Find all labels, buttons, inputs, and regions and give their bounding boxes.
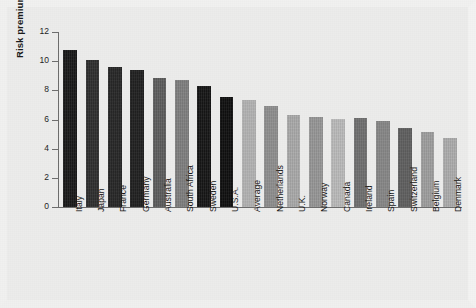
y-tick-label: 12 (40, 26, 49, 36)
y-tick-0: 0 (52, 207, 58, 208)
bar-texture (287, 115, 301, 207)
y-tick-label: 0 (44, 201, 49, 211)
x-tick-label-germany: Germany (141, 176, 151, 212)
x-tick-label-ireland: Ireland (364, 185, 374, 212)
x-tick-label-italy: Italy (74, 196, 84, 212)
y-tick-label: 10 (40, 55, 49, 65)
bar-japan (86, 60, 100, 207)
y-tick-12: 12 (52, 32, 58, 33)
bar-texture (86, 60, 100, 207)
x-tick-label-spain: Spain (386, 190, 396, 212)
y-tick-10: 10 (52, 61, 58, 62)
bar-italy (63, 50, 77, 208)
bar-texture (63, 50, 77, 208)
x-tick-label-sweden: Sweden (208, 181, 218, 212)
x-tick-label-belgium: Belgium (431, 181, 441, 212)
y-tick-4: 4 (52, 149, 58, 150)
y-tick-label: 2 (44, 172, 49, 182)
x-tick-label-france: France (118, 185, 128, 212)
y-tick-8: 8 (52, 90, 58, 91)
x-tick-label-average: Average (252, 180, 262, 212)
x-tick-label-japan: Japan (96, 188, 106, 212)
x-tick-label-u-s-a: U.S.A. (230, 187, 240, 212)
y-axis-title: Risk premium (%) (14, 0, 28, 58)
y-tick-label: 8 (44, 84, 49, 94)
x-tick-label-netherlands: Netherlands (275, 165, 285, 212)
y-tick-label: 6 (44, 114, 49, 124)
plot-area: 024681012 ItalyJapanFranceGermanyAustral… (58, 32, 462, 208)
y-tick-label: 4 (44, 143, 49, 153)
y-tick-6: 6 (52, 120, 58, 121)
x-tick-label-switzerland: Switzerland (409, 167, 419, 212)
y-tick-2: 2 (52, 178, 58, 179)
x-tick-label-canada: Canada (342, 182, 352, 212)
chart-figure: Risk premium (%) 024681012 ItalyJapanFra… (0, 0, 476, 308)
x-tick-label-australia: Australia (163, 178, 173, 212)
x-tick-label-norway: Norway (319, 183, 329, 212)
x-tick-label-denmark: Denmark (453, 177, 463, 212)
x-tick-label-u-k: U.K. (297, 195, 307, 212)
x-tick-label-south-africa: South Africa (185, 165, 195, 212)
bar-u-k (287, 115, 301, 207)
